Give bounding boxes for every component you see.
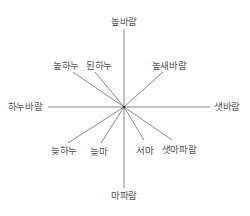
direction-label-southeast-inner: 서마 (136, 146, 153, 156)
direction-label-northeast: 높새바람 (152, 61, 187, 71)
direction-label-southeast-outer: 샛마파람 (162, 145, 197, 155)
direction-line-southeast-outer (124, 107, 172, 140)
direction-line-northeast (124, 72, 163, 107)
direction-label-east: 샛바람 (214, 102, 240, 112)
direction-label-north: 높바람 (111, 17, 137, 27)
direction-line-northwest-inner (95, 72, 124, 107)
direction-line-southwest-outer (68, 107, 124, 143)
direction-line-southwest-inner (101, 107, 124, 143)
direction-label-west: 하누바람 (8, 102, 43, 112)
direction-label-southwest-outer: 늦하누 (51, 146, 77, 156)
center-point (123, 106, 126, 109)
direction-label-northwest-inner: 된하누 (86, 61, 112, 71)
direction-label-southwest-inner: 늦마 (90, 147, 107, 157)
direction-label-south: 마파람 (111, 191, 137, 201)
direction-label-northwest-outer: 높하누 (53, 61, 79, 71)
direction-line-northwest-outer (73, 72, 124, 107)
wind-direction-diagram: 높바람마파람하누바람샛바람높하누된하누높새바람늦하누늦마서마샛마파람 (0, 0, 250, 216)
direction-line-southeast-inner (124, 107, 144, 140)
